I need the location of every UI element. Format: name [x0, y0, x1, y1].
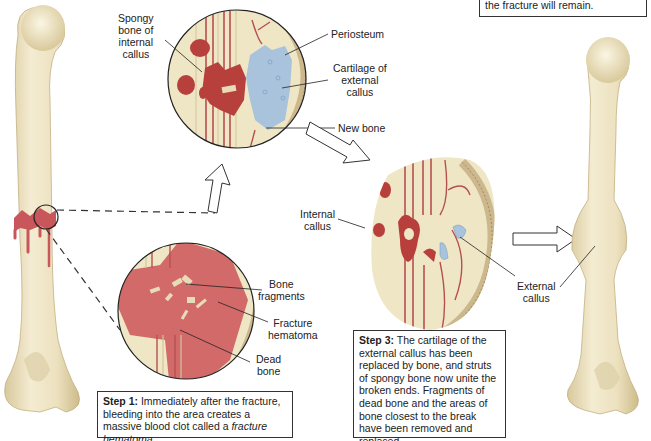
step4-caption-box-partial: the fracture will remain. — [479, 0, 647, 17]
label-dead-bone: Dead bone — [256, 353, 281, 377]
label-fracture-hematoma: Fracture hematoma — [268, 317, 318, 341]
step3-caption-box: Step 3: The cartilage of the external ca… — [353, 330, 506, 438]
hematoma-detail-circle — [110, 240, 270, 390]
label-spongy-bone: Spongy bone of internal callus — [118, 12, 154, 60]
callus-detail-circle — [160, 0, 335, 165]
healed-humerus — [560, 37, 638, 414]
label-new-bone: New bone — [338, 122, 385, 134]
step1-title: Step 1: — [103, 395, 138, 407]
remodeling-detail-section — [338, 150, 515, 335]
step1-caption-box: Step 1: Immediately after the fracture, … — [97, 391, 293, 438]
label-external-callus: External callus — [517, 280, 556, 304]
label-cartilage-external-callus: Cartilage of external callus — [333, 62, 387, 98]
arrow-right-icon — [513, 226, 576, 252]
label-periosteum: Periosteum — [331, 28, 384, 40]
step3-title: Step 3: — [359, 334, 394, 346]
arrow-up-icon — [205, 164, 230, 213]
label-internal-callus: Internal callus — [300, 208, 335, 232]
label-bone-fragments: Bone fragments — [258, 278, 305, 302]
